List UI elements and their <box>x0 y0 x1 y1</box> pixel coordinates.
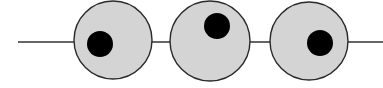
circle-1 <box>74 1 152 79</box>
dot-1 <box>87 31 113 57</box>
circle-3 <box>270 2 348 80</box>
circle-2 <box>170 1 250 81</box>
dot-3 <box>307 30 333 56</box>
dot-2 <box>204 13 230 39</box>
beads-on-string-diagram <box>0 0 383 88</box>
